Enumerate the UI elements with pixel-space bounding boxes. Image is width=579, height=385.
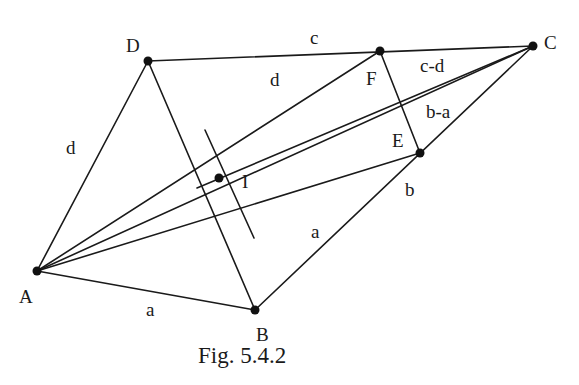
segment-ac <box>37 46 533 271</box>
label-point-c: C <box>544 33 557 52</box>
label-edge-a-be: a <box>311 222 319 241</box>
point-f-dot <box>376 47 385 56</box>
label-edge-b: b <box>405 180 415 199</box>
label-point-d: D <box>126 36 140 55</box>
segment-ic-extended <box>197 46 533 188</box>
quadrilateral-diagram <box>0 0 579 385</box>
point-d-dot <box>144 57 153 66</box>
label-point-a: A <box>19 287 33 306</box>
label-point-b: B <box>256 325 269 344</box>
label-point-i: I <box>242 172 248 191</box>
segment-da <box>37 61 148 271</box>
label-point-f: F <box>366 69 377 88</box>
label-edge-d-left: d <box>66 138 76 157</box>
point-e-dot <box>416 149 425 158</box>
point-c-dot <box>529 42 538 51</box>
label-point-e: E <box>392 131 404 150</box>
label-edge-a-ab: a <box>146 300 154 319</box>
segment-ae <box>37 153 420 271</box>
point-a-dot <box>33 267 42 276</box>
segment-af <box>37 51 380 271</box>
point-i-dot <box>215 174 224 183</box>
geometry-figure: D C F E I A B c d c-d b-a d b a a Fig. 5… <box>0 0 579 385</box>
label-edge-d-top: d <box>270 70 280 89</box>
segment-cd <box>148 46 533 61</box>
label-edge-c-minus-d: c-d <box>420 56 444 75</box>
label-edge-b-minus-a: b-a <box>426 102 450 121</box>
label-edge-c: c <box>310 28 318 47</box>
point-b-dot <box>251 306 260 315</box>
figure-caption: Fig. 5.4.2 <box>198 344 286 367</box>
